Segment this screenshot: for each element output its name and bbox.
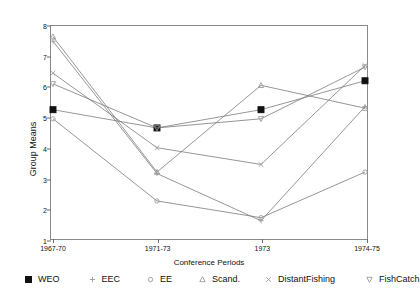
data-point	[50, 34, 55, 39]
legend-item-scand-[interactable]: Scand.	[196, 274, 240, 284]
x-axis-label: Conference Periods	[50, 258, 368, 267]
series-line	[53, 119, 365, 218]
open-triangle-down-icon	[363, 275, 376, 284]
x-tick-mark	[158, 239, 159, 243]
chart-legend: WEOEECEEScand.DistantFishingFishCatch	[22, 271, 382, 287]
y-tick-label: 6	[43, 84, 47, 91]
series-line	[53, 81, 365, 128]
legend-item-fishcatch[interactable]: FishCatch	[363, 274, 420, 284]
data-point	[362, 78, 368, 84]
legend-item-distantfishing[interactable]: DistantFishing	[262, 274, 335, 284]
legend-label: EE	[160, 274, 172, 284]
legend-label: EEC	[102, 274, 121, 284]
x-tick-label: 1974-75	[354, 245, 380, 252]
open-triangle-up-icon	[196, 275, 209, 284]
x-tick-label: 1973	[255, 245, 271, 252]
x-tick-label: 1967-70	[40, 245, 66, 252]
y-tick-mark	[47, 241, 51, 242]
y-tick-label: 3	[43, 176, 47, 183]
y-axis-label: Group Means	[28, 121, 38, 176]
series-lines-layer	[51, 26, 367, 239]
legend-label: FishCatch	[379, 274, 420, 284]
legend-label: WEO	[38, 274, 60, 284]
open-circle-icon	[144, 275, 157, 284]
x-tick-mark	[53, 239, 54, 243]
plot-area: 12345678 1967-701971-7319731974-75	[50, 25, 368, 240]
y-tick-label: 2	[43, 207, 47, 214]
data-point	[258, 107, 264, 113]
cross-x-icon	[262, 275, 275, 284]
legend-label: DistantFishing	[278, 274, 335, 284]
y-tick-label: 8	[43, 23, 47, 30]
data-point	[51, 71, 56, 76]
y-tick-label: 1	[43, 238, 47, 245]
series-line	[53, 41, 365, 221]
y-tick-label: 4	[43, 145, 47, 152]
legend-item-ee[interactable]: EE	[144, 274, 172, 284]
series-line	[53, 37, 365, 172]
series-distantfishing	[51, 63, 368, 166]
plus-icon	[86, 275, 99, 284]
x-tick-mark	[262, 239, 263, 243]
filled-square-icon	[22, 275, 35, 284]
legend-label: Scand.	[212, 274, 240, 284]
series-weo	[50, 78, 368, 131]
legend-item-weo[interactable]: WEO	[22, 274, 60, 284]
legend-item-eec[interactable]: EEC	[86, 274, 121, 284]
x-tick-label: 1971-73	[145, 245, 171, 252]
series-scand-	[50, 34, 367, 174]
series-ee	[51, 117, 367, 220]
series-line	[53, 66, 365, 165]
y-tick-label: 5	[43, 115, 47, 122]
series-eec	[50, 39, 367, 224]
data-point	[50, 107, 56, 113]
x-tick-mark	[367, 239, 368, 243]
data-point	[51, 117, 55, 121]
data-point	[363, 170, 367, 174]
y-tick-label: 7	[43, 53, 47, 60]
